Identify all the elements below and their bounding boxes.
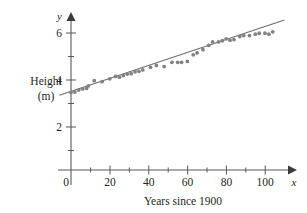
- data-point: [228, 38, 232, 42]
- x-tick-label-20: 20: [104, 176, 116, 188]
- data-point: [133, 70, 137, 74]
- data-point: [232, 38, 236, 42]
- data-point: [195, 51, 199, 55]
- x-axis-title: Years since 1900: [144, 195, 222, 207]
- x-tick-label-40: 40: [143, 176, 155, 188]
- data-point: [186, 60, 190, 64]
- data-point: [267, 32, 271, 36]
- data-point: [77, 88, 81, 92]
- data-point: [87, 84, 91, 88]
- data-point: [217, 40, 221, 44]
- y-axis-title-line2: (m): [38, 90, 55, 103]
- data-point: [121, 74, 125, 78]
- x-tick-label-80: 80: [221, 176, 233, 188]
- data-point: [238, 35, 242, 39]
- y-tick-label-6: 6: [56, 27, 62, 39]
- trend-line: [59, 20, 284, 95]
- data-point: [162, 65, 166, 69]
- y-axis-variable-name: y: [56, 10, 62, 22]
- data-point: [201, 48, 205, 52]
- data-point: [180, 60, 184, 64]
- data-point: [114, 75, 118, 79]
- data-point: [81, 87, 85, 91]
- x-tick-label-60: 60: [182, 176, 194, 188]
- data-point: [149, 65, 153, 69]
- data-point: [118, 75, 122, 79]
- data-point: [263, 31, 267, 35]
- data-point: [69, 91, 73, 95]
- data-point: [73, 90, 77, 94]
- data-point: [176, 60, 180, 64]
- data-point: [224, 37, 228, 41]
- data-point-group: [69, 30, 275, 94]
- data-point: [207, 44, 211, 48]
- data-point: [271, 30, 275, 34]
- chart-canvas: y x 6 4 2 0 20 40: [0, 0, 307, 213]
- x-axis-variable-name: x: [291, 176, 297, 188]
- data-point: [220, 39, 224, 43]
- y-axis-arrowhead: [67, 12, 76, 21]
- data-point: [154, 64, 158, 68]
- data-point: [257, 31, 261, 35]
- y-tick-label-2: 2: [56, 121, 62, 133]
- x-tick-label-100: 100: [257, 176, 275, 188]
- data-point: [137, 69, 141, 73]
- data-point: [141, 68, 145, 72]
- data-point: [191, 53, 195, 57]
- data-point: [248, 34, 252, 38]
- data-point: [125, 72, 129, 76]
- data-point: [253, 32, 257, 36]
- y-axis-title-line1: Height: [30, 75, 62, 88]
- data-point: [211, 40, 215, 44]
- x-axis-arrowhead: [288, 166, 297, 175]
- data-point: [108, 77, 112, 81]
- data-point: [92, 79, 96, 83]
- data-point: [100, 80, 104, 84]
- data-point: [242, 34, 246, 38]
- data-point: [170, 60, 174, 64]
- x-tick-label-0: 0: [63, 176, 69, 188]
- scatter-plot-figure: y x 6 4 2 0 20 40: [0, 0, 307, 213]
- data-point: [129, 72, 133, 76]
